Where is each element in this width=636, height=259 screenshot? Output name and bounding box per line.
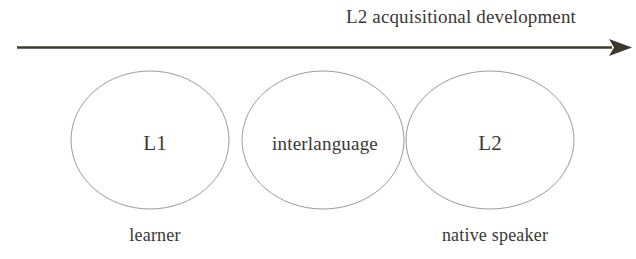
caption-learner: learner [85, 223, 225, 247]
circle-label-l2: L2 [425, 130, 555, 156]
circle-label-l1: L1 [90, 130, 220, 156]
axis-title: L2 acquisitional development [346, 5, 632, 29]
progression-arrow [0, 34, 636, 62]
caption-native-speaker: native speaker [405, 223, 585, 247]
arrow-head-icon [609, 39, 632, 56]
circle-label-interlanguage: interlanguage [245, 131, 405, 157]
diagram-canvas: L2 acquisitional development L1 interlan… [0, 0, 636, 259]
